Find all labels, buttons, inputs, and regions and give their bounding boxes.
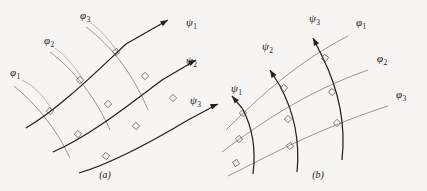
right-angle-square	[169, 94, 176, 101]
psi-arrowhead-2	[270, 70, 276, 78]
phi-label-3: φ3	[396, 88, 407, 103]
psi-arrowhead-3	[210, 104, 218, 109]
right-angle-mark	[169, 94, 176, 101]
psi-label-1: ψ1	[186, 16, 197, 31]
psi-curve-3	[313, 38, 343, 160]
phi-label-2: φ2	[377, 52, 388, 67]
panel-caption-a: (a)	[99, 169, 111, 181]
right-angle-mark	[328, 88, 335, 95]
phi-label-2: φ2	[44, 34, 55, 49]
phi-label-1: φ1	[10, 66, 21, 81]
psi-label-2: ψ2	[262, 40, 273, 55]
right-angle-square	[328, 88, 335, 95]
right-angle-square	[104, 100, 111, 107]
phi-curve-1	[14, 86, 70, 158]
psi-label-3: ψ3	[309, 12, 320, 27]
phi-label-leader-3	[91, 23, 118, 53]
panel-caption-b: (b)	[312, 169, 324, 181]
psi-curve-family-a: ψ1ψ2ψ3	[26, 16, 218, 173]
phi-label-1: φ1	[356, 16, 367, 31]
phi-label-leader-2	[55, 48, 82, 78]
right-angle-mark	[104, 100, 111, 107]
figure-orthogonal-curvilinear-coordinates: φ1φ2φ3ψ1ψ2ψ3(a)φ1φ2φ3ψ1ψ2ψ3(b)	[0, 0, 427, 191]
psi-curve-family-b: ψ1ψ2ψ3	[231, 12, 343, 174]
right-angle-mark	[132, 122, 139, 129]
psi-arrowhead-3	[313, 38, 319, 46]
right-angle-mark	[141, 72, 148, 79]
right-angle-mark	[284, 115, 291, 122]
right-angle-square	[232, 159, 239, 166]
panel-b: φ1φ2φ3ψ1ψ2ψ3(b)	[222, 12, 407, 181]
psi-label-3: ψ3	[190, 94, 201, 109]
phi-label-3: φ3	[80, 9, 91, 24]
right-angle-mark	[74, 130, 81, 137]
right-angle-square	[74, 130, 81, 137]
right-angle-square	[284, 115, 291, 122]
right-angle-mark	[232, 159, 239, 166]
psi-curve-3	[79, 104, 218, 173]
phi-curve-3	[228, 106, 388, 176]
phi-curve-2	[50, 52, 110, 130]
phi-label-leader-1	[22, 80, 52, 110]
right-angle-square	[132, 122, 139, 129]
right-angle-square	[102, 152, 109, 159]
right-angle-marks-b	[232, 54, 340, 166]
psi-curve-2	[53, 60, 196, 152]
psi-curve-1	[232, 96, 254, 174]
psi-label-1: ψ1	[231, 82, 242, 97]
panel-a: φ1φ2φ3ψ1ψ2ψ3(a)	[10, 9, 218, 181]
right-angle-mark	[102, 152, 109, 159]
phi-curve-family-a: φ1φ2φ3	[10, 9, 148, 158]
psi-arrowhead-1	[160, 20, 168, 26]
right-angle-square	[141, 72, 148, 79]
figure-canvas: φ1φ2φ3ψ1ψ2ψ3(a)φ1φ2φ3ψ1ψ2ψ3(b)	[0, 0, 427, 191]
psi-label-2: ψ2	[186, 54, 197, 69]
